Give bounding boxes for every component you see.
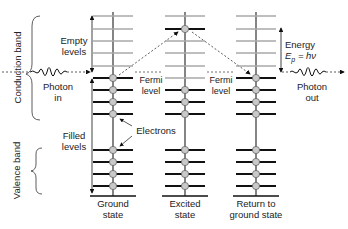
valence-band-label: Valence band xyxy=(11,136,22,206)
electron xyxy=(109,146,116,153)
empty-levels-label: Empty levels xyxy=(56,36,92,57)
state-column-0 xyxy=(90,12,136,196)
electron xyxy=(252,170,259,177)
conduction-band-label: Conduction band xyxy=(12,23,23,113)
energy-label: Energy Ep = hν xyxy=(285,40,325,65)
electron xyxy=(181,182,188,189)
filled-levels-label: Filled levels xyxy=(56,131,92,152)
conduction-band-brace xyxy=(26,16,40,120)
electron xyxy=(252,98,259,105)
electron xyxy=(109,74,116,81)
energy-level-diagram: Conduction band Valence band Empty level… xyxy=(0,0,348,229)
fermi-level-label-1: Fermi level xyxy=(137,75,165,96)
electron xyxy=(252,182,259,189)
energy-equation: Ep = hν xyxy=(285,51,325,65)
fermi-level-label-2: Fermi level xyxy=(207,75,235,96)
state-label-excited: Excited state xyxy=(160,199,210,220)
electron xyxy=(252,74,259,81)
electrons-pointer-2 xyxy=(120,136,132,146)
state-label-ground: Ground state xyxy=(88,199,138,220)
electron xyxy=(109,86,116,93)
electron xyxy=(181,110,188,117)
photon-out-label: Photon out xyxy=(294,82,330,103)
electron xyxy=(109,110,116,117)
photon-out-wave xyxy=(290,68,326,77)
valence-band-brace xyxy=(31,148,42,194)
state-column-1 xyxy=(162,12,208,196)
electrons-pointer-1 xyxy=(120,119,132,126)
electron xyxy=(252,110,259,117)
electron xyxy=(109,98,116,105)
photon-in-wave xyxy=(30,68,67,77)
electron xyxy=(181,86,188,93)
electron xyxy=(252,158,259,165)
electron xyxy=(181,158,188,165)
photon-in-label: Photon in xyxy=(40,82,76,103)
electron xyxy=(181,25,188,32)
state-label-return: Return to ground state xyxy=(221,199,291,220)
state-column-2 xyxy=(233,12,279,196)
electron xyxy=(109,182,116,189)
electron xyxy=(181,170,188,177)
electron xyxy=(252,86,259,93)
electron xyxy=(252,146,259,153)
electron xyxy=(109,170,116,177)
electron xyxy=(181,146,188,153)
electron xyxy=(181,98,188,105)
electron xyxy=(109,158,116,165)
diagram-canvas xyxy=(0,0,348,229)
electrons-label: Electrons xyxy=(134,126,178,137)
